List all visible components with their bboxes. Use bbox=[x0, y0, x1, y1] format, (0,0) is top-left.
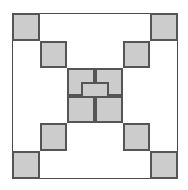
cell-br-diag-2 bbox=[123, 123, 151, 151]
cell-bl-diag-2 bbox=[40, 123, 68, 151]
figure-root bbox=[0, 0, 188, 190]
cell-br-diag-3 bbox=[95, 96, 123, 124]
cell-bottom-left-corner bbox=[12, 151, 40, 179]
cell-top-left-corner bbox=[12, 13, 40, 41]
cell-bl-diag-3 bbox=[67, 96, 95, 124]
cell-tl-diag-2 bbox=[40, 41, 68, 69]
cell-bottom-right-corner bbox=[150, 151, 178, 179]
cell-tr-diag-2 bbox=[123, 41, 151, 69]
cell-top-right-corner bbox=[150, 13, 178, 41]
pattern-cell-layer bbox=[0, 0, 188, 190]
